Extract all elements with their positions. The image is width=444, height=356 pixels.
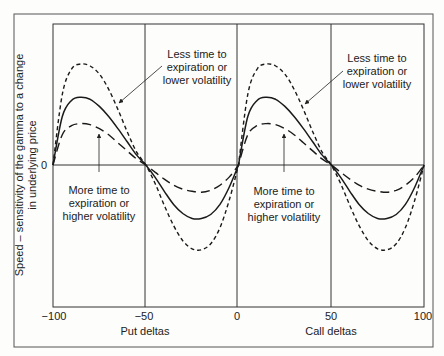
svg-text:expiration or: expiration or — [347, 65, 408, 77]
y-axis-title-line2: in underlying price — [26, 120, 38, 209]
svg-text:higher volatility: higher volatility — [63, 210, 136, 222]
annotation-more-time-put: More time to expiration or higher volati… — [63, 184, 136, 222]
svg-text:Less time to: Less time to — [347, 52, 406, 64]
svg-text:lower volatility: lower volatility — [343, 78, 412, 90]
arrow-less-time-put — [119, 66, 162, 103]
speed-chart: 0 −100 −50 0 50 100 Put deltas Call delt… — [0, 0, 444, 356]
curve-less-time — [53, 64, 424, 250]
x-tick-0: 0 — [234, 310, 240, 322]
x-axis-title-call: Call deltas — [305, 325, 357, 337]
svg-text:higher volatility: higher volatility — [248, 211, 321, 223]
svg-text:expiration or: expiration or — [69, 197, 130, 209]
x-tick-minus100: −100 — [42, 310, 67, 322]
svg-text:expiration or: expiration or — [254, 198, 315, 210]
x-tick-minus50: −50 — [135, 310, 154, 322]
x-axis-title-put: Put deltas — [121, 325, 170, 337]
y-axis-title-line1: Speed – sensitivity of the gamma to a ch… — [13, 54, 25, 277]
svg-text:More time to: More time to — [253, 185, 314, 197]
annotation-less-time-put: Less time to expiration or lower volatil… — [163, 48, 232, 86]
y-tick-0: 0 — [41, 159, 47, 171]
x-tick-100: 100 — [414, 310, 432, 322]
curve-more-time — [53, 124, 424, 193]
svg-text:Less time to: Less time to — [167, 48, 226, 60]
x-tick-50: 50 — [325, 310, 337, 322]
arrow-less-time-call — [305, 71, 343, 104]
annotation-less-time-call: Less time to expiration or lower volatil… — [343, 52, 412, 90]
svg-text:expiration or: expiration or — [167, 61, 228, 73]
svg-text:More time to: More time to — [68, 184, 129, 196]
annotation-more-time-call: More time to expiration or higher volati… — [248, 185, 321, 223]
svg-text:lower volatility: lower volatility — [163, 74, 232, 86]
